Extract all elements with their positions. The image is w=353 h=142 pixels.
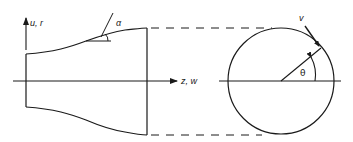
- alpha-label: α: [116, 18, 122, 28]
- diagram-canvas: z, w u, r α θ v: [0, 0, 353, 142]
- swirl-velocity-arrow: [305, 26, 319, 46]
- theta-arc: [311, 57, 315, 81]
- radial-axis-label: u, r: [30, 18, 44, 28]
- alpha-arc: [105, 34, 108, 41]
- swirl-velocity-label: v: [299, 13, 304, 23]
- theta-label: θ: [300, 68, 306, 78]
- diagram-svg: z, w u, r α θ v: [0, 0, 353, 142]
- nozzle-lower-wall: [26, 107, 147, 135]
- axial-axis-label: z, w: [180, 76, 198, 86]
